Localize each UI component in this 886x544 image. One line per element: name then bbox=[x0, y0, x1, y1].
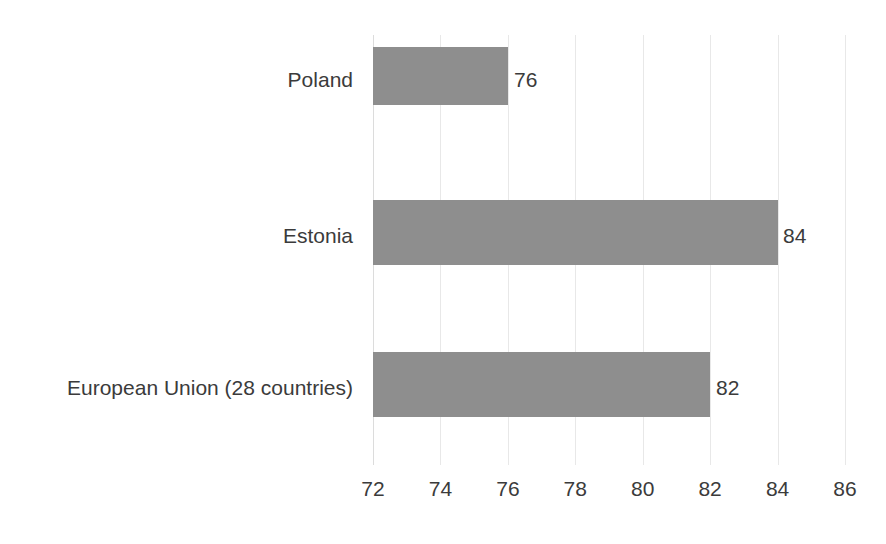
x-tick-label-84: 84 bbox=[766, 478, 789, 499]
category-label-poland: Poland bbox=[288, 69, 353, 90]
category-label-european-union: European Union (28 countries) bbox=[67, 377, 353, 398]
bar-poland[interactable] bbox=[373, 47, 508, 105]
gridline-84 bbox=[778, 35, 779, 465]
x-axis-labels: 72 74 76 78 80 82 84 86 bbox=[0, 478, 886, 518]
bar-value-european-union: 82 bbox=[716, 377, 739, 398]
bar-value-poland: 76 bbox=[514, 69, 537, 90]
x-tick-label-74: 74 bbox=[429, 478, 452, 499]
x-tick-label-86: 86 bbox=[833, 478, 856, 499]
category-axis-labels: Poland Estonia European Union (28 countr… bbox=[0, 0, 363, 544]
plot-area: 76 84 82 bbox=[373, 35, 845, 465]
x-tick-label-78: 78 bbox=[564, 478, 587, 499]
x-tick-label-76: 76 bbox=[496, 478, 519, 499]
x-tick-label-80: 80 bbox=[631, 478, 654, 499]
bar-european-union[interactable] bbox=[373, 352, 710, 417]
gridline-86 bbox=[845, 35, 846, 465]
x-tick-label-82: 82 bbox=[698, 478, 721, 499]
category-label-estonia: Estonia bbox=[283, 225, 353, 246]
x-tick-label-72: 72 bbox=[361, 478, 384, 499]
bar-value-estonia: 84 bbox=[783, 225, 806, 246]
bar-chart: 76 84 82 Poland Estonia European Union (… bbox=[0, 0, 886, 544]
bar-estonia[interactable] bbox=[373, 200, 778, 265]
